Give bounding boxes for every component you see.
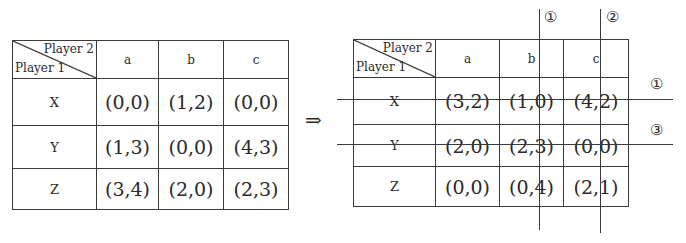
circled-three-icon: ③ [648, 122, 664, 138]
circled-one-icon: ① [542, 9, 558, 25]
left-payoff-matrix: Player 2 Player 1 a b c X (0,0) (1,2) (0… [12, 40, 289, 210]
payoff-cell: (3,2) [436, 78, 500, 125]
implies-arrow-icon: ⇒ [305, 110, 322, 130]
payoff-cell: (0,0) [159, 126, 224, 169]
column-header-a: a [97, 41, 159, 79]
column-header-c: c [564, 40, 629, 78]
column-c-elimination-line [600, 9, 601, 233]
payoff-cell: (2,3) [224, 169, 289, 210]
payoff-cell: (1,0) [500, 78, 564, 125]
table-row: Z (3,4) (2,0) (2,3) [13, 169, 289, 210]
row-header-y: Y [13, 126, 97, 169]
column-header-a: a [436, 40, 500, 78]
payoff-cell: (0,4) [500, 167, 564, 207]
payoff-cell: (4,3) [224, 126, 289, 169]
table-row: X (3,2) (1,0) (4,2) [354, 78, 629, 125]
header-row: Player 2 Player 1 a b c [354, 40, 629, 78]
row-header-z: Z [13, 169, 97, 210]
payoff-cell: (2,3) [500, 125, 564, 167]
table-row: X (0,0) (1,2) (0,0) [13, 79, 289, 126]
corner-header-cell: Player 2 Player 1 [354, 40, 436, 78]
right-payoff-matrix: Player 2 Player 1 a b c X (3,2) (1,0) (4… [353, 39, 629, 207]
circled-one-icon: ① [648, 76, 664, 92]
player2-label: Player 2 [44, 43, 94, 56]
table-row: Y (2,0) (2,3) (0,0) [354, 125, 629, 167]
row-x-elimination-line [337, 99, 673, 100]
table-row: Z (0,0) (0,4) (2,1) [354, 167, 629, 207]
row-header-x: X [13, 79, 97, 126]
row-header-y: Y [354, 125, 436, 167]
row-header-z: Z [354, 167, 436, 207]
payoff-cell: (2,0) [436, 125, 500, 167]
payoff-cell: (1,3) [97, 126, 159, 169]
payoff-cell: (1,2) [159, 79, 224, 126]
payoff-cell: (4,2) [564, 78, 629, 125]
payoff-cell: (0,0) [436, 167, 500, 207]
corner-header-cell: Player 2 Player 1 [13, 41, 97, 79]
payoff-cell: (3,4) [97, 169, 159, 210]
player1-label: Player 1 [15, 62, 65, 75]
column-b-elimination-line [539, 9, 540, 230]
table-row: Y (1,3) (0,0) (4,3) [13, 126, 289, 169]
row-header-x: X [354, 78, 436, 125]
column-header-c: c [224, 41, 289, 79]
payoff-cell: (2,0) [159, 169, 224, 210]
player2-label: Player 2 [383, 42, 433, 55]
column-header-b: b [500, 40, 564, 78]
payoff-cell: (2,1) [564, 167, 629, 207]
circled-two-icon: ② [604, 9, 620, 25]
payoff-cell: (0,0) [564, 125, 629, 167]
player1-label: Player 1 [356, 61, 406, 74]
column-header-b: b [159, 41, 224, 79]
payoff-cell: (0,0) [224, 79, 289, 126]
payoff-cell: (0,0) [97, 79, 159, 126]
row-y-elimination-line [337, 144, 673, 145]
header-row: Player 2 Player 1 a b c [13, 41, 289, 79]
